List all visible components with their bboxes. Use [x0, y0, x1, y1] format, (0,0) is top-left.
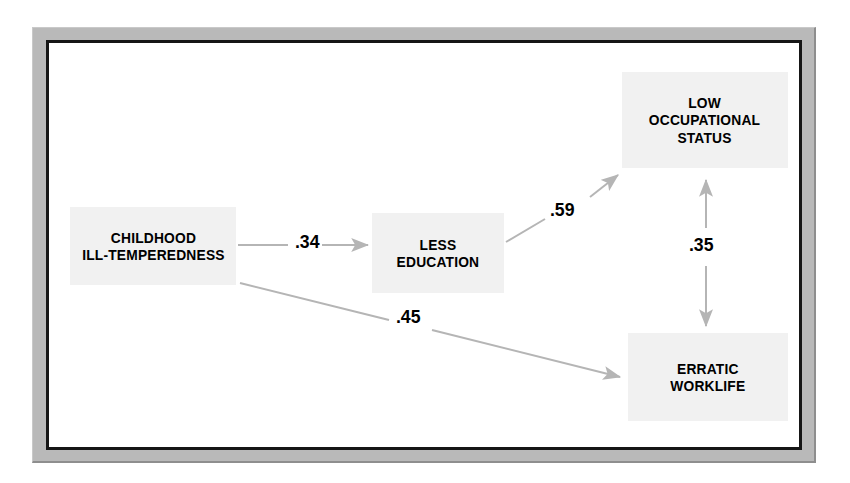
node-education-label: LESS EDUCATION	[397, 236, 480, 271]
node-status-label: LOW OCCUPATIONAL STATUS	[649, 94, 760, 146]
node-less-education[interactable]: LESS EDUCATION	[372, 213, 504, 293]
path-coefficient-status-worklife: .35	[686, 234, 716, 256]
path-coefficient-childhood-worklife: .45	[393, 306, 423, 328]
node-erratic-worklife[interactable]: ERRATIC WORKLIFE	[628, 333, 788, 421]
node-worklife-label: ERRATIC WORKLIFE	[670, 360, 745, 395]
path-coefficient-childhood-education: .34	[292, 231, 322, 253]
node-childhood-label: CHILDHOOD ILL-TEMPEREDNESS	[82, 229, 224, 264]
node-childhood-ill-temperedness[interactable]: CHILDHOOD ILL-TEMPEREDNESS	[70, 207, 236, 285]
path-diagram-figure: CHILDHOOD ILL-TEMPEREDNESS LESS EDUCATIO…	[0, 0, 850, 483]
node-low-occupational-status[interactable]: LOW OCCUPATIONAL STATUS	[622, 72, 788, 168]
path-coefficient-education-status: .59	[547, 199, 577, 221]
